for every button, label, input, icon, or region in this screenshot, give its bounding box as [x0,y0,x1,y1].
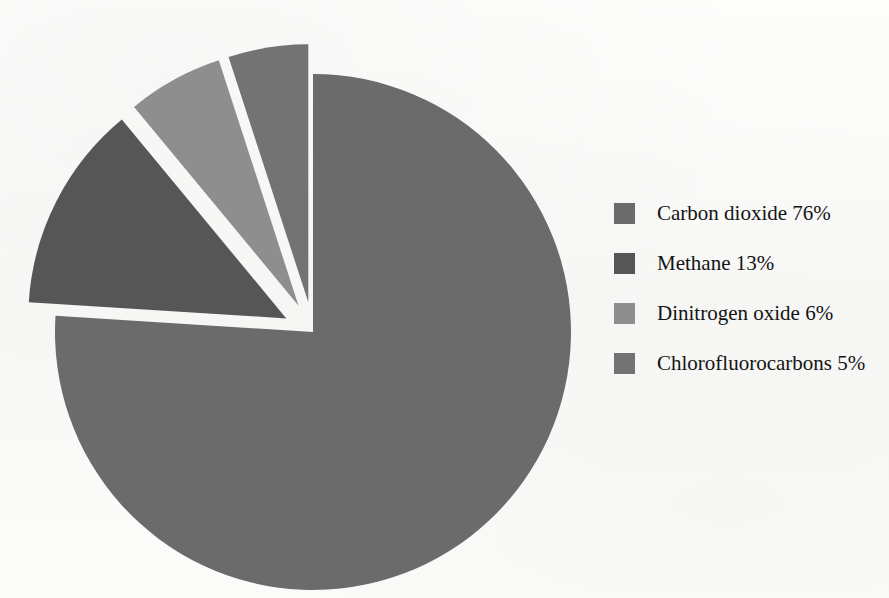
legend-swatch-methane [614,253,635,274]
pie-chart-page: Carbon dioxide 76% Methane 13% Dinitroge… [0,0,889,598]
chart-legend: Carbon dioxide 76% Methane 13% Dinitroge… [614,188,889,388]
legend-swatch-chlorofluorocarbons [614,353,635,374]
legend-label-methane: Methane 13% [657,251,774,276]
legend-item-methane[interactable]: Methane 13% [614,238,889,288]
legend-label-chlorofluorocarbons: Chlorofluorocarbons 5% [657,351,865,376]
legend-item-chlorofluorocarbons[interactable]: Chlorofluorocarbons 5% [614,338,889,388]
legend-label-dinitrogen-oxide: Dinitrogen oxide 6% [657,301,833,326]
legend-item-dinitrogen-oxide[interactable]: Dinitrogen oxide 6% [614,288,889,338]
legend-swatch-carbon-dioxide [614,203,635,224]
legend-item-carbon-dioxide[interactable]: Carbon dioxide 76% [614,188,889,238]
legend-label-carbon-dioxide: Carbon dioxide 76% [657,201,831,226]
pie-slices-group [29,44,571,590]
legend-swatch-dinitrogen-oxide [614,303,635,324]
